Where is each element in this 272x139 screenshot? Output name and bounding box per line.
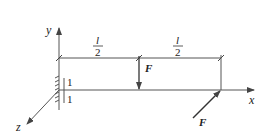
beam-diagram: y x z 1 1 <box>0 0 272 139</box>
dimension-label-right: l 2 <box>173 34 183 58</box>
force-vertical-label: F <box>144 62 153 74</box>
dimension-line <box>56 55 224 90</box>
dimension-denominator: 2 <box>95 46 101 58</box>
y-axis-label: y <box>45 23 52 37</box>
section-label-upper: 1 <box>67 76 73 88</box>
z-axis-label: z <box>15 120 21 134</box>
force-end: F <box>193 91 220 128</box>
z-axis: z <box>15 90 59 134</box>
fixed-support <box>55 76 59 102</box>
force-end-label: F <box>198 116 207 128</box>
force-vertical: F <box>139 56 153 89</box>
x-axis-label: x <box>248 93 255 107</box>
dimension-numerator: l <box>176 34 179 46</box>
dimension-label-left: l 2 <box>93 34 103 58</box>
section-label-lower: 1 <box>67 93 73 105</box>
dimension-denominator: 2 <box>175 46 181 58</box>
dimension-numerator: l <box>96 34 99 46</box>
x-axis: x <box>59 90 255 107</box>
